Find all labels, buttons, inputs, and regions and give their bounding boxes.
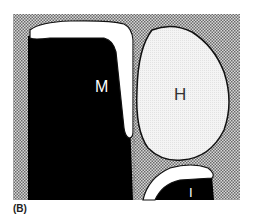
label-M: M	[95, 78, 108, 95]
label-H: H	[174, 85, 186, 104]
figure-caption: (B)	[13, 203, 27, 214]
label-I: I	[189, 185, 193, 200]
diagram-canvas: M H I	[0, 0, 253, 220]
anatomical-diagram: M H I (B)	[0, 0, 253, 220]
